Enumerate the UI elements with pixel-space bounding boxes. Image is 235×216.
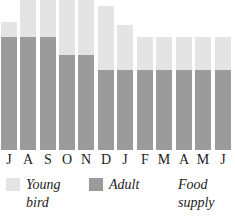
legend-label-young-bird-line2: bird [26, 194, 49, 211]
bar-segment-young-feb [137, 37, 153, 70]
bar-jan [117, 25, 133, 150]
bar-feb [137, 37, 153, 150]
bar-segment-adult-feb [137, 70, 153, 150]
bar-jun [215, 37, 231, 150]
bar-mar [156, 37, 172, 150]
bar-dec [98, 6, 114, 150]
x-tick-label-2: S [40, 150, 56, 170]
x-tick-label-6: J [117, 150, 133, 170]
bar-segment-adult-apr [176, 70, 192, 150]
bar-segment-adult-jan [117, 70, 133, 150]
bar-segment-adult-dec [98, 70, 114, 150]
bar-segment-adult-may [195, 70, 211, 150]
bar-segment-young-oct [59, 0, 75, 55]
chart-legend: Young bird Adult Food supply [0, 176, 235, 216]
bar-apr [176, 37, 192, 150]
bar-segment-young-jun [215, 37, 231, 70]
bar-segment-adult-nov [78, 55, 94, 150]
bar-aug [20, 0, 36, 150]
bar-segment-adult-oct [59, 55, 75, 150]
x-tick-label-5: D [98, 150, 114, 170]
bar-segment-young-mar [156, 37, 172, 70]
x-tick-label-8: M [156, 150, 172, 170]
bar-segment-young-jul [1, 22, 17, 37]
bar-sep [40, 0, 56, 150]
legend-label-food-supply-line1: Food [178, 176, 208, 193]
x-axis-tick-labels: J A S O N D J F M A M J [0, 150, 235, 172]
x-tick-label-1: A [20, 150, 36, 170]
plot-area [0, 0, 235, 150]
bar-oct [59, 0, 75, 150]
bar-segment-young-may [195, 37, 211, 70]
bar-segment-adult-mar [156, 70, 172, 150]
legend-label-young-bird-line1: Young [26, 176, 61, 193]
x-tick-label-0: J [1, 150, 17, 170]
bar-segment-young-apr [176, 37, 192, 70]
stacked-bar-chart: J A S O N D J F M A M J Young bird Adult… [0, 0, 235, 216]
legend-label-food-supply-line2: supply [178, 194, 215, 211]
legend-label-adult: Adult [109, 176, 139, 193]
x-tick-label-10: M [195, 150, 211, 170]
bar-segment-adult-sep [40, 37, 56, 150]
x-tick-label-7: F [137, 150, 153, 170]
bar-segment-young-sep [40, 0, 56, 37]
bar-segment-adult-jun [215, 70, 231, 150]
bar-segment-adult-jul [1, 37, 17, 150]
bar-segment-young-nov [78, 0, 94, 55]
bar-segment-young-jan [117, 25, 133, 70]
bar-jul [1, 22, 17, 150]
bar-nov [78, 0, 94, 150]
bar-segment-young-dec [98, 6, 114, 70]
x-tick-label-9: A [176, 150, 192, 170]
legend-swatch-adult-icon [89, 178, 103, 191]
bar-segment-adult-aug [20, 37, 36, 150]
x-tick-label-4: N [78, 150, 94, 170]
bar-segment-young-aug [20, 0, 36, 37]
x-tick-label-11: J [215, 150, 231, 170]
x-tick-label-3: O [59, 150, 75, 170]
legend-swatch-young-bird-icon [6, 178, 20, 191]
bar-may [195, 37, 211, 150]
